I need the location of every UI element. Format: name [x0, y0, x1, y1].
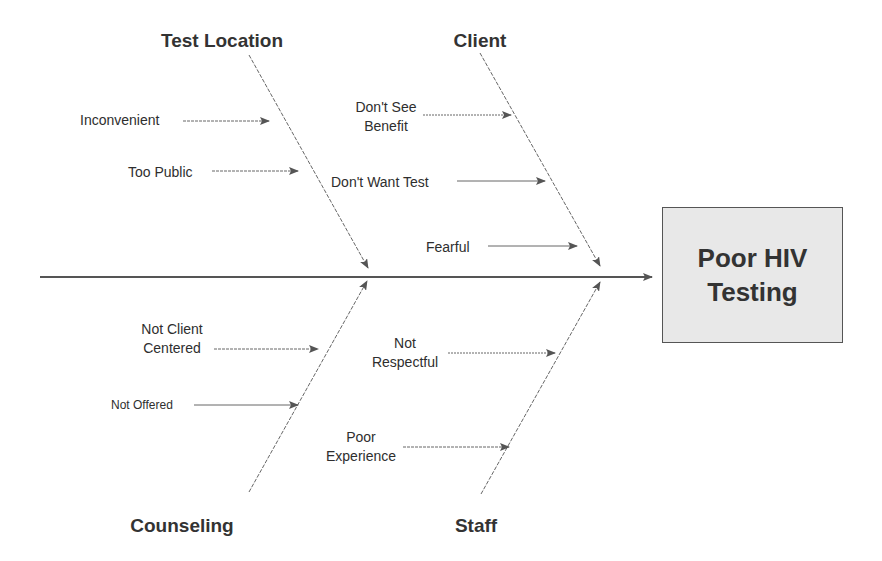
category-client: Client	[454, 30, 507, 52]
category-test-location: Test Location	[161, 30, 283, 52]
cause-poor-experience: Poor Experience	[318, 428, 404, 466]
cause-line: Don't See	[347, 98, 425, 117]
bone-staff	[481, 282, 600, 494]
effect-label: Poor HIV Testing	[698, 241, 808, 309]
cause-line: Don't Want Test	[331, 174, 429, 190]
cause-not-respectful: Not Respectful	[365, 334, 445, 372]
cause-line: Experience	[318, 447, 404, 466]
category-counseling: Counseling	[130, 515, 233, 537]
cause-line: Centered	[132, 339, 212, 358]
effect-line-2: Testing	[698, 275, 808, 309]
cause-not-offered: Not Offered	[111, 396, 173, 415]
cause-line: Inconvenient	[80, 112, 159, 128]
bone-test-location	[249, 55, 368, 268]
cause-line: Respectful	[365, 353, 445, 372]
cause-not-client-centered: Not Client Centered	[132, 320, 212, 358]
cause-line: Not	[365, 334, 445, 353]
cause-line: Not Offered	[111, 398, 173, 412]
effect-box: Poor HIV Testing	[662, 207, 843, 343]
cause-line: Too Public	[128, 164, 193, 180]
cause-dont-want-test: Don't Want Test	[331, 173, 429, 192]
effect-line-1: Poor HIV	[698, 241, 808, 275]
cause-line: Poor	[318, 428, 404, 447]
cause-too-public: Too Public	[128, 163, 193, 182]
bone-client	[480, 53, 600, 266]
category-staff: Staff	[455, 515, 497, 537]
cause-line: Benefit	[347, 117, 425, 136]
cause-line: Not Client	[132, 320, 212, 339]
cause-dont-see-benefit: Don't See Benefit	[347, 98, 425, 136]
cause-inconvenient: Inconvenient	[80, 111, 159, 130]
cause-fearful: Fearful	[426, 238, 470, 257]
cause-line: Fearful	[426, 239, 470, 255]
